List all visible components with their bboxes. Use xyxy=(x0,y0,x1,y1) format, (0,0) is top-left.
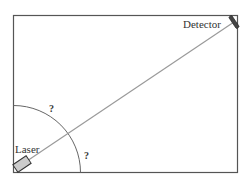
laser-device xyxy=(13,156,31,172)
angle-upper-label: ? xyxy=(49,103,54,114)
laser-beam xyxy=(24,22,234,163)
room-frame xyxy=(14,16,238,173)
laser-label: Laser xyxy=(15,143,40,155)
angle-lower-label: ? xyxy=(84,150,89,161)
laser-diagram: Detector Laser ? ? xyxy=(0,0,252,182)
detector-label: Detector xyxy=(183,18,221,30)
